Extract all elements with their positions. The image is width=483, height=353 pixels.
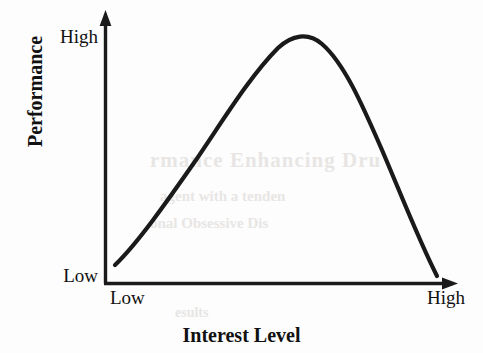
y-axis-tick-label-low: Low bbox=[0, 266, 98, 285]
x-axis-title: Interest Level bbox=[0, 324, 483, 347]
y-axis-title: Performance bbox=[24, 12, 47, 172]
y-axis-arrowhead-icon bbox=[100, 10, 112, 26]
performance-curve bbox=[115, 36, 437, 276]
figure-canvas: rmance Enhancing Dru agent with a tenden… bbox=[0, 0, 483, 353]
y-axis bbox=[100, 10, 112, 284]
x-axis-tick-label-high: High bbox=[0, 288, 465, 307]
y-axis-tick-label-high: High bbox=[0, 27, 98, 46]
